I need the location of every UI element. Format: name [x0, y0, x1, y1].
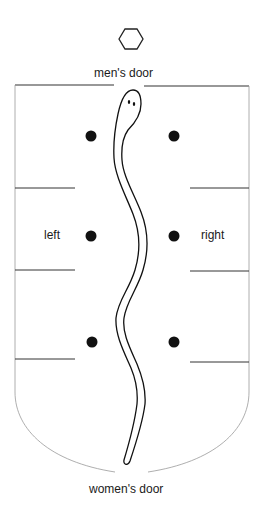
dot-left-1 [86, 131, 97, 142]
hexagon-icon [119, 29, 143, 49]
snake-figure [114, 90, 147, 464]
dot-left-3 [87, 337, 98, 348]
right-label: right [201, 228, 224, 242]
bottom-door-label: women's door [89, 482, 163, 496]
dot-left-2 [86, 231, 97, 242]
snake-eye-left [128, 100, 130, 104]
dot-right-2 [169, 231, 180, 242]
snake-body-outline [114, 90, 147, 464]
dot-right-3 [169, 337, 180, 348]
bottom-wall-left-arc [15, 392, 115, 472]
dot-right-1 [169, 131, 180, 142]
snake-eye-right [133, 102, 135, 106]
bottom-wall-right-arc [148, 392, 249, 472]
left-label: left [44, 228, 60, 242]
top-door-label: men's door [94, 66, 153, 80]
